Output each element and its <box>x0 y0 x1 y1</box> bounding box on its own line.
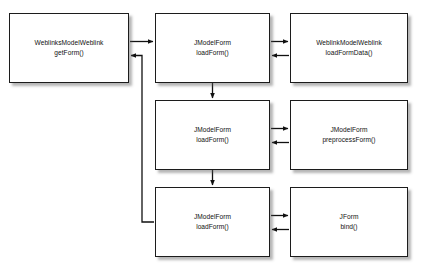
node-method-name: getForm() <box>54 48 83 58</box>
node-method-name: loadForm() <box>196 222 229 232</box>
node-class-name: JModelForm <box>194 38 231 48</box>
node-class-name: JModelForm <box>194 212 231 222</box>
node-jmodelform-loadform-1[interactable]: JModelForm loadForm() <box>155 13 270 83</box>
node-method-name: preprocessForm() <box>322 135 375 145</box>
node-class-name: WeblinkModelWeblink <box>316 38 382 48</box>
node-jform-bind[interactable]: JForm bind() <box>290 187 408 257</box>
node-class-name: JModelForm <box>194 125 231 135</box>
node-jmodelform-loadform-2[interactable]: JModelForm loadForm() <box>155 100 270 170</box>
node-weblink-model-loadformdata[interactable]: WeblinkModelWeblink loadFormData() <box>290 13 408 83</box>
call-flow-diagram: WeblinksModelWeblink getForm() JModelFor… <box>0 0 421 271</box>
edge-return-loadform3-to-getform <box>131 56 154 223</box>
node-class-name: JForm <box>340 212 359 222</box>
node-method-name: loadFormData() <box>326 48 373 58</box>
node-jmodelform-loadform-3[interactable]: JModelForm loadForm() <box>155 187 270 257</box>
node-class-name: JModelForm <box>330 125 367 135</box>
node-method-name: loadForm() <box>196 48 229 58</box>
node-method-name: bind() <box>340 222 357 232</box>
node-weblinks-model-getform[interactable]: WeblinksModelWeblink getForm() <box>9 13 129 83</box>
node-class-name: WeblinksModelWeblink <box>35 38 104 48</box>
node-jmodelform-preprocessform[interactable]: JModelForm preprocessForm() <box>290 100 408 170</box>
node-method-name: loadForm() <box>196 135 229 145</box>
